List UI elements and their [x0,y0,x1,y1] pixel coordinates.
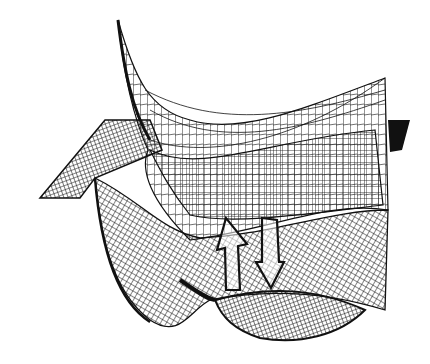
wireframe-surface-figure [0,0,430,364]
right-wing [388,120,410,152]
